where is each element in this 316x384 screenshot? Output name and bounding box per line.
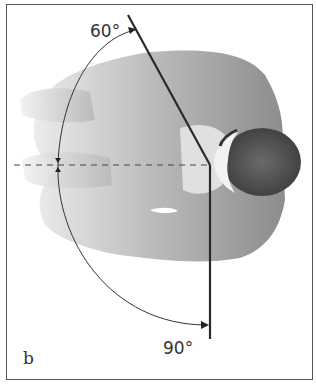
- head: [214, 128, 301, 196]
- diagram-canvas: 60° 90° b: [0, 0, 316, 384]
- panel-label: b: [23, 348, 34, 368]
- angle-label-90: 90°: [163, 338, 193, 358]
- angle-label-60: 60°: [90, 21, 120, 41]
- arrowhead-ninety: [201, 321, 209, 329]
